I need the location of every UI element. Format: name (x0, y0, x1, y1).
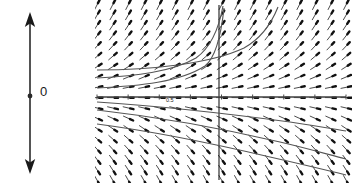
slope-arrowhead (98, 21, 100, 24)
slope-arrowhead (208, 119, 211, 120)
slope-arrowhead (208, 140, 211, 142)
slope-arrowhead (114, 11, 116, 14)
slope-arrowhead (286, 64, 289, 66)
slope-arrowhead (254, 130, 257, 132)
slope-arrowhead (270, 151, 272, 154)
slope-arrowhead (98, 42, 100, 44)
slope-arrowhead (348, 64, 351, 66)
slope-arrowhead (286, 75, 289, 76)
slope-arrowhead (270, 53, 273, 55)
slope-arrowhead (130, 64, 133, 66)
slope-arrowhead (348, 108, 351, 109)
slope-arrowhead (177, 119, 180, 120)
slope-arrowhead (222, 0, 224, 3)
slope-arrowhead (316, 53, 319, 55)
slope-arrowhead (301, 119, 304, 120)
slope-arrowhead (254, 42, 256, 44)
slope-arrowhead (99, 53, 102, 55)
slope-arrowhead (254, 32, 256, 35)
slope-arrowhead (285, 182, 287, 183)
slope-arrowhead (301, 161, 303, 164)
slope-arrowhead (317, 130, 320, 132)
slope-arrowhead (176, 53, 179, 55)
slope-arrowhead (129, 11, 131, 14)
slope-arrowhead (176, 11, 178, 14)
slope-arrowhead (161, 140, 164, 142)
slope-arrowhead (146, 108, 149, 109)
slope-arrowhead (238, 171, 240, 174)
slope-arrowhead (224, 108, 227, 109)
slope-arrowhead (176, 21, 178, 24)
slope-arrowhead (99, 119, 102, 120)
slope-arrowhead (347, 151, 349, 154)
slope-arrowhead (301, 32, 303, 35)
slope-arrowhead (223, 182, 225, 183)
slope-arrowhead (146, 119, 149, 120)
slope-arrowhead (238, 21, 240, 24)
slope-arrowhead (223, 75, 226, 76)
slope-arrowhead (207, 161, 209, 164)
slope-arrowhead (347, 32, 349, 35)
slope-arrowhead (208, 86, 211, 87)
slope-arrowhead (207, 171, 209, 174)
slope-arrowhead (145, 182, 147, 183)
solution-curve (97, 102, 346, 131)
slope-arrowhead (348, 86, 351, 87)
slope-arrowhead (145, 53, 148, 55)
slope-arrowhead (208, 53, 211, 55)
slope-arrowhead (192, 32, 194, 35)
slope-arrowhead (192, 161, 194, 164)
slope-arrowhead (223, 42, 225, 44)
slope-arrowhead (347, 171, 349, 174)
slope-arrowhead (146, 86, 149, 87)
slope-arrowhead (208, 64, 211, 66)
slope-arrowhead (348, 140, 351, 142)
slope-arrowhead (130, 119, 133, 120)
slope-arrowhead (332, 53, 335, 55)
slope-arrowhead (301, 108, 304, 109)
slope-arrowhead (160, 21, 162, 24)
slope-arrowhead (115, 108, 118, 109)
slope-arrowhead (161, 32, 163, 35)
slope-arrowhead (332, 21, 334, 24)
slope-arrowhead (176, 171, 178, 174)
slope-arrowhead (145, 11, 147, 14)
slope-arrowhead (114, 42, 116, 44)
slope-arrowhead (270, 75, 273, 76)
slope-arrowhead (176, 151, 178, 154)
slope-arrowhead (207, 0, 209, 3)
slope-arrowhead (176, 161, 178, 164)
slope-arrowhead (332, 108, 335, 109)
slope-arrowhead (255, 75, 258, 76)
slope-arrowhead (98, 32, 100, 35)
slope-arrowhead (269, 0, 271, 3)
slope-arrowhead (239, 86, 242, 87)
slope-arrowhead (333, 86, 336, 87)
slope-arrowhead (98, 161, 100, 164)
slope-arrowhead (239, 64, 242, 66)
slope-arrowhead (347, 0, 349, 3)
slope-arrowhead (192, 42, 194, 44)
slope-arrowhead (255, 108, 258, 109)
slope-arrowhead (316, 32, 318, 35)
slope-arrowhead (98, 151, 100, 154)
slope-arrowhead (286, 119, 289, 120)
slope-arrowhead (239, 130, 242, 132)
slope-arrowhead (300, 0, 302, 3)
slope-arrowhead (301, 130, 304, 132)
slope-arrowhead (114, 119, 117, 120)
slope-arrowhead (255, 86, 258, 87)
slope-arrowhead (114, 161, 116, 164)
slope-arrowhead (285, 140, 288, 142)
slope-arrowhead (160, 0, 162, 3)
slope-arrowhead (192, 53, 195, 55)
slope-arrowhead (145, 161, 147, 164)
slope-arrowhead (269, 161, 271, 164)
slope-arrowhead (208, 75, 211, 76)
slope-arrowhead (161, 86, 164, 87)
slope-arrowhead (161, 64, 164, 66)
solution-curve (97, 110, 346, 159)
slope-arrowhead (114, 182, 116, 183)
slope-arrowhead (145, 140, 148, 142)
slope-arrowhead (254, 0, 256, 3)
